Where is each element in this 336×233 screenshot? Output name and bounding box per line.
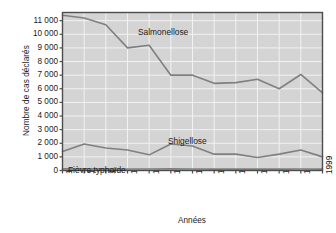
series-label-salmonellose: Salmonellose [138, 28, 188, 37]
x-axis-title: Années [62, 216, 322, 225]
series-label-fievre-typhoide: Fièvre typhoïde [68, 166, 126, 175]
chart-figure: Nombre de cas déclarés 01 0002 0003 0004… [0, 0, 336, 233]
series-label-shigellose: Shigellose [168, 137, 207, 146]
